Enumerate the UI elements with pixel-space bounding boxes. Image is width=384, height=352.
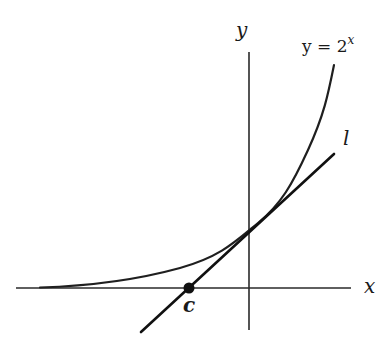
- point-c-dot: [184, 283, 195, 294]
- tangent-line: [141, 154, 334, 332]
- x-axis-label: x: [364, 276, 375, 296]
- point-c-label: c: [183, 295, 195, 315]
- exponential-curve: [40, 65, 334, 288]
- curve-equation-exponent: x: [347, 33, 354, 47]
- curve-equation-lhs: y = 2: [302, 36, 347, 56]
- curve-equation-label: y = 2x: [302, 34, 354, 55]
- tangent-line-label: l: [343, 128, 349, 148]
- y-axis-label: y: [236, 20, 247, 40]
